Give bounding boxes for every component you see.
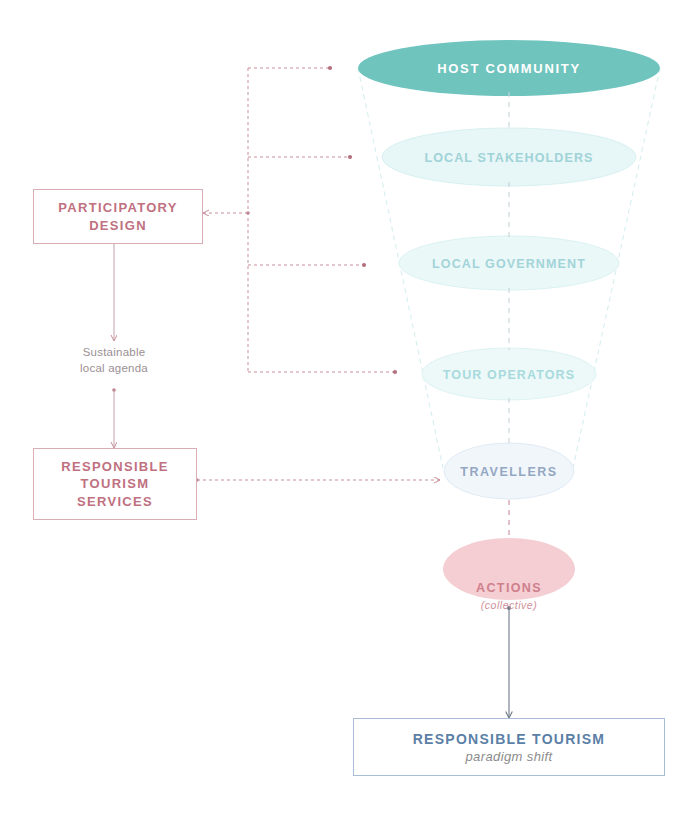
actions-ellipse[interactable] <box>443 538 575 600</box>
responsible-tourism-box[interactable]: RESPONSIBLE TOURISM paradigm shift <box>353 718 665 776</box>
participatory-design-box[interactable]: PARTICIPATORY DESIGN <box>33 189 203 244</box>
funnel-ellipse-host-community[interactable] <box>358 40 660 96</box>
responsible-tourism-services-box[interactable]: RESPONSIBLE TOURISM SERVICES <box>33 448 197 520</box>
responsible-tourism-subtitle: paradigm shift <box>465 749 552 764</box>
funnel-ellipse-tour-operators[interactable] <box>422 348 596 400</box>
participatory-design-connector-bracket <box>203 68 395 372</box>
diagram-vector-layer <box>0 0 697 819</box>
funnel-ellipse-local-government[interactable] <box>399 236 619 290</box>
funnel-ellipse-travellers[interactable] <box>444 443 574 499</box>
diagram-canvas: HOST COMMUNITY LOCAL STAKEHOLDERS LOCAL … <box>0 0 697 819</box>
responsible-tourism-services-title: RESPONSIBLE TOURISM SERVICES <box>61 458 168 511</box>
funnel-ellipse-local-stakeholders[interactable] <box>382 128 636 186</box>
responsible-tourism-title: RESPONSIBLE TOURISM <box>413 730 605 749</box>
participatory-design-title: PARTICIPATORY DESIGN <box>58 199 177 234</box>
